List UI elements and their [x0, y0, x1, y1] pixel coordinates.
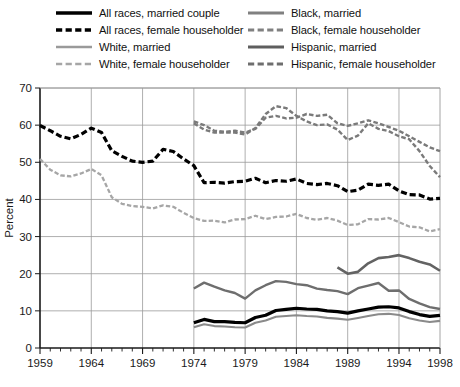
legend-item[interactable]: All races, married couple: [55, 4, 245, 21]
y-axis-title: Percent: [3, 197, 15, 237]
chart-plot-area: 0102030405060701959196419691974197919841…: [0, 76, 460, 376]
legend-line-swatch: [247, 7, 285, 19]
legend-item[interactable]: Black, female householder: [247, 21, 457, 38]
chart-legend: All races, married coupleAll races, fema…: [0, 4, 460, 76]
x-axis-tick-label: 1994: [386, 357, 412, 369]
x-axis-tick-label: 1969: [130, 357, 156, 369]
legend-column-left: All races, married coupleAll races, fema…: [55, 4, 245, 72]
legend-item-label: All races, married couple: [99, 7, 220, 19]
legend-item[interactable]: Black, married: [247, 4, 457, 21]
legend-item[interactable]: White, female householder: [55, 55, 245, 72]
x-axis-tick-label: 1959: [27, 357, 53, 369]
legend-item[interactable]: Hispanic, married: [247, 38, 457, 55]
y-axis-tick-label: 0: [26, 342, 32, 354]
legend-column-right: Black, marriedBlack, female householderH…: [247, 4, 457, 72]
x-axis-tick-label: 1984: [284, 357, 310, 369]
x-axis-tick-label: 1979: [232, 357, 258, 369]
legend-line-swatch: [55, 41, 93, 53]
legend-item-label: White, female householder: [99, 58, 230, 70]
x-axis-tick-label: 1974: [181, 357, 207, 369]
x-axis-tick-label: 1964: [78, 357, 104, 369]
line-chart-svg: 0102030405060701959196419691974197919841…: [0, 76, 460, 376]
legend-item-label: All races, female householder: [99, 24, 243, 36]
legend-item[interactable]: All races, female householder: [55, 21, 245, 38]
y-axis-tick-label: 70: [19, 82, 32, 94]
x-axis-tick-label: 1998: [427, 357, 453, 369]
y-axis-tick-label: 40: [19, 193, 32, 205]
legend-item-label: Black, female householder: [291, 24, 420, 36]
legend-item[interactable]: White, married: [55, 38, 245, 55]
legend-item-label: Hispanic, female householder: [291, 58, 436, 70]
legend-item-label: White, married: [99, 41, 170, 53]
legend-line-swatch: [55, 24, 93, 36]
y-axis-tick-label: 60: [19, 119, 32, 131]
legend-line-swatch: [55, 58, 93, 70]
series-line: [194, 281, 440, 309]
y-axis-tick-label: 50: [19, 156, 32, 168]
legend-line-swatch: [247, 24, 285, 36]
legend-line-swatch: [55, 7, 93, 19]
series-line: [194, 114, 440, 151]
y-axis-tick-label: 10: [19, 305, 32, 317]
legend-item-label: Hispanic, married: [291, 41, 376, 53]
chart-figure: All races, married coupleAll races, fema…: [0, 0, 460, 387]
series-line: [194, 307, 440, 323]
legend-line-swatch: [247, 41, 285, 53]
legend-item[interactable]: Hispanic, female householder: [247, 55, 457, 72]
series-line: [40, 159, 440, 231]
legend-item-label: Black, married: [291, 7, 361, 19]
y-axis-tick-label: 30: [19, 231, 32, 243]
y-axis-tick-label: 20: [19, 268, 32, 280]
x-axis-tick-label: 1989: [335, 357, 361, 369]
legend-line-swatch: [247, 58, 285, 70]
series-line: [337, 255, 440, 274]
